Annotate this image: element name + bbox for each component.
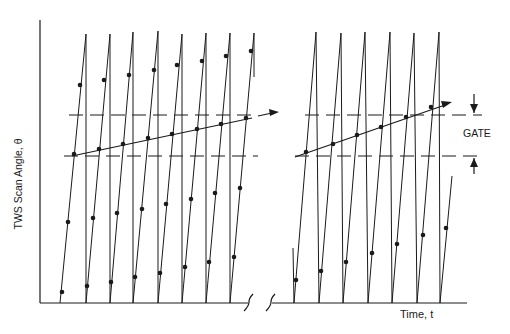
gate-arrow-down-icon	[470, 104, 478, 113]
tws-diagram	[0, 0, 510, 334]
gate-arrow-up-icon	[470, 158, 478, 167]
gate-label: GATE	[463, 127, 491, 139]
track-arrow-right-icon	[441, 101, 452, 108]
sawtooth-left	[60, 31, 254, 303]
x-axis-label: Time, t	[400, 308, 433, 320]
sawtooth-right	[293, 32, 452, 303]
returns-lower-right	[294, 226, 449, 283]
track-arrow-left-icon	[269, 109, 279, 116]
y-axis-label: TWS Scan Angle, θ	[12, 124, 24, 244]
gate-lines	[64, 115, 482, 156]
